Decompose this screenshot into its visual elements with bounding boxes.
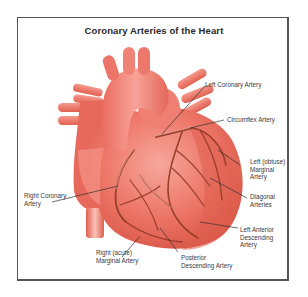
label-left-anterior-descending-artery: Left Anterior Descending Artery — [240, 226, 274, 249]
label-diagonal-arteries: Diagonal Arteries — [250, 193, 275, 208]
label-posterior-descending-artery: Posterior Descending Artery — [181, 254, 232, 269]
label-left-coronary-artery: Left Coronary Artery — [205, 81, 261, 89]
label-right-coronary-artery: Right Coronary Artery — [24, 192, 66, 207]
label-left-obtuse-marginal-artery: Left (obtuse) Marginal Artery — [250, 158, 285, 181]
heart-illustration — [0, 0, 308, 297]
label-circumflex-artery: Circumflex Artery — [227, 116, 275, 124]
label-right-acute-marginal-artery: Right (acute) Marginal Artery — [96, 249, 138, 264]
